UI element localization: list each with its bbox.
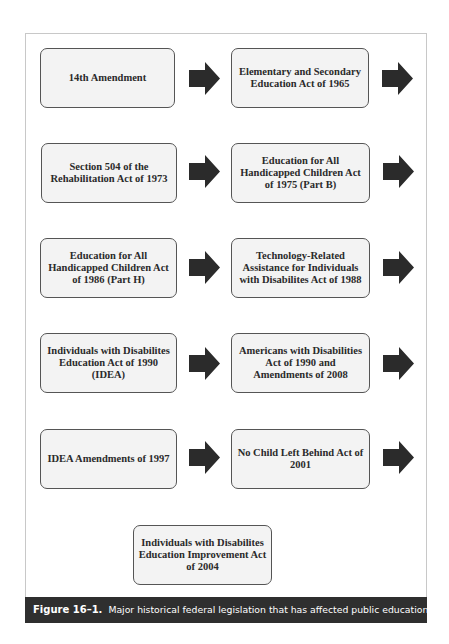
legislation-box-eahca-1975: Education for All Handicapped Children A… bbox=[231, 143, 370, 203]
legislation-box-tech-act-1988: Technology-Related Assistance for Indivi… bbox=[231, 238, 370, 298]
box-label: Americans with Disabilities Act of 1990 … bbox=[239, 345, 362, 381]
legislation-box-idea-amendments-1997: IDEA Amendments of 1997 bbox=[40, 429, 177, 489]
box-label: Technology-Related Assistance for Indivi… bbox=[240, 250, 362, 286]
box-label: Individuals with Disabilites Education I… bbox=[139, 537, 267, 573]
right-arrow-icon bbox=[383, 155, 414, 188]
box-label: Elementary and Secondary Education Act o… bbox=[239, 66, 361, 90]
right-arrow-icon bbox=[189, 347, 220, 380]
legislation-box-idea-1990: Individuals with Disabilites Education A… bbox=[40, 333, 177, 393]
figure-caption-label: Figure 16–1. bbox=[33, 604, 102, 615]
right-arrow-icon bbox=[189, 62, 220, 95]
right-arrow-icon bbox=[383, 441, 414, 474]
right-arrow-icon bbox=[189, 441, 220, 474]
box-label: No Child Left Behind Act of 2001 bbox=[238, 447, 364, 471]
legislation-box-section-504: Section 504 of the Rehabilitation Act of… bbox=[41, 143, 177, 203]
box-label: Section 504 of the Rehabilitation Act of… bbox=[51, 161, 168, 185]
box-label: IDEA Amendments of 1997 bbox=[47, 453, 169, 465]
figure-caption-text: Major historical federal legislation tha… bbox=[108, 604, 431, 615]
legislation-box-eahca-1986: Education for All Handicapped Children A… bbox=[40, 238, 177, 298]
legislation-box-ada-1990: Americans with Disabilities Act of 1990 … bbox=[231, 333, 370, 393]
right-arrow-icon bbox=[382, 62, 413, 95]
box-label: Education for All Handicapped Children A… bbox=[240, 155, 361, 191]
right-arrow-icon bbox=[189, 155, 220, 188]
legislation-box-esea-1965: Elementary and Secondary Education Act o… bbox=[231, 48, 369, 108]
right-arrow-icon bbox=[383, 347, 414, 380]
legislation-box-14th-amendment: 14th Amendment bbox=[40, 48, 175, 108]
figure-caption: Figure 16–1. Major historical federal le… bbox=[25, 597, 427, 623]
legislation-box-idea-improvement-2004: Individuals with Disabilites Education I… bbox=[133, 525, 272, 585]
right-arrow-icon bbox=[189, 251, 220, 284]
box-label: 14th Amendment bbox=[69, 72, 146, 84]
right-arrow-icon bbox=[383, 251, 414, 284]
box-label: Education for All Handicapped Children A… bbox=[48, 250, 169, 286]
box-label: Individuals with Disabilites Education A… bbox=[47, 345, 170, 381]
legislation-box-nclb-2001: No Child Left Behind Act of 2001 bbox=[231, 429, 370, 489]
